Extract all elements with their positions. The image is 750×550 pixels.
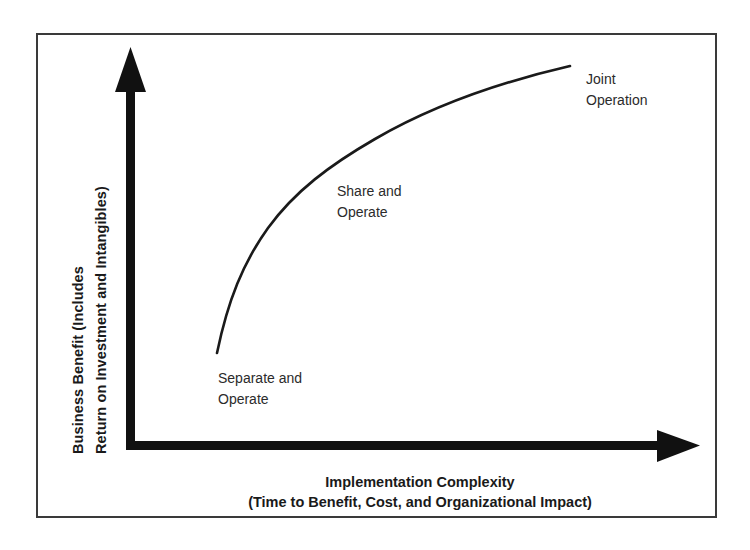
annotation-share-and-operate: Share and Operate (337, 181, 402, 223)
annotation-share-line2: Operate (337, 202, 402, 223)
x-axis-label-line2: (Time to Benefit, Cost, and Organization… (160, 492, 680, 512)
x-axis-label: Implementation Complexity (Time to Benef… (160, 472, 680, 512)
figure-canvas: Business Benefit (Includes Return on Inv… (0, 0, 750, 550)
annotation-share-line1: Share and (337, 181, 402, 202)
x-axis (126, 430, 700, 462)
y-axis (115, 47, 146, 450)
annotation-separate-and-operate: Separate and Operate (218, 368, 302, 410)
y-axis-label: Business Benefit (Includes Return on Inv… (55, 62, 101, 462)
annotation-joint-line2: Operation (586, 90, 647, 111)
y-axis-label-line1: Business Benefit (Includes (70, 266, 86, 454)
annotation-joint-line1: Joint (586, 69, 647, 90)
x-axis-label-line1: Implementation Complexity (160, 472, 680, 492)
y-axis-label-line2: Return on Investment and Intangibles) (93, 186, 109, 454)
annotation-separate-line1: Separate and (218, 368, 302, 389)
annotation-joint-operation: Joint Operation (586, 69, 647, 111)
annotation-separate-line2: Operate (218, 389, 302, 410)
